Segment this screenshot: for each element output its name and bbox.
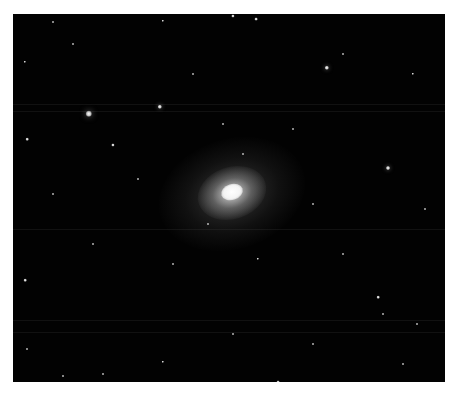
star [86, 111, 92, 117]
sensor-streak [13, 229, 445, 230]
star [24, 61, 26, 63]
star [172, 263, 174, 265]
star [231, 14, 234, 17]
star [382, 313, 384, 315]
sensor-streak [13, 111, 445, 112]
star [312, 203, 314, 205]
star [257, 258, 259, 260]
star [162, 20, 164, 22]
star [292, 128, 294, 130]
star [412, 73, 414, 75]
star [377, 296, 380, 299]
star [342, 53, 344, 55]
star [72, 43, 74, 45]
astronomical-image [13, 14, 445, 382]
star [255, 18, 258, 21]
star [416, 323, 418, 325]
star [232, 333, 234, 335]
star [342, 253, 344, 255]
star [62, 375, 64, 377]
star [192, 73, 194, 75]
sensor-streak [13, 320, 445, 321]
star [222, 123, 224, 125]
star [26, 348, 28, 350]
star [26, 138, 29, 141]
star [386, 166, 390, 170]
star [158, 105, 162, 109]
star [111, 143, 114, 146]
star [137, 178, 139, 180]
star [424, 208, 426, 210]
star [402, 363, 404, 365]
star [325, 66, 329, 70]
star [24, 279, 27, 282]
star [92, 243, 94, 245]
sensor-streak [13, 332, 445, 333]
star [207, 223, 209, 225]
sensor-streak [13, 104, 445, 105]
star [52, 21, 54, 23]
star [312, 343, 314, 345]
star [102, 373, 104, 375]
star [277, 381, 280, 382]
star [162, 361, 164, 363]
star [242, 153, 244, 155]
star [52, 193, 54, 195]
